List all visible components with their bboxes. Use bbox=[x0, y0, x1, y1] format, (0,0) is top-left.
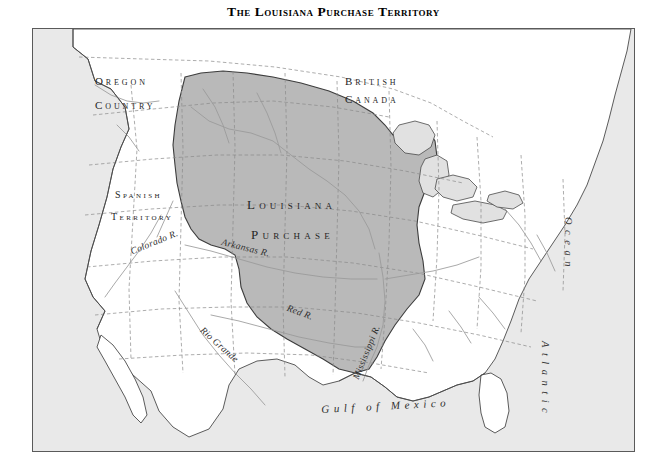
map-page: The Louisiana Purchase Territory bbox=[0, 0, 667, 476]
map-frame: Pacific Ocean Ocean Atlantic Gulf of Mex… bbox=[32, 28, 635, 452]
map-graphic bbox=[33, 29, 634, 451]
page-title: The Louisiana Purchase Territory bbox=[0, 4, 667, 20]
